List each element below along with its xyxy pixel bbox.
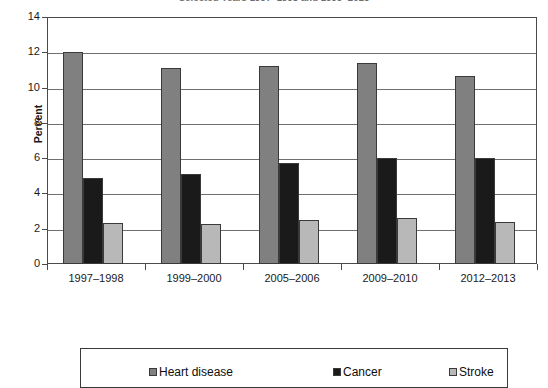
y-tick-label: 0 (8, 257, 40, 269)
bar (495, 222, 515, 264)
y-tick-label: 4 (8, 186, 40, 198)
y-tick-label: 8 (8, 116, 40, 128)
x-tick-mark (439, 264, 440, 270)
bar (83, 178, 103, 264)
bar (377, 158, 397, 264)
x-tick-mark (341, 264, 342, 270)
y-tick-label: 2 (8, 222, 40, 234)
bar (103, 223, 123, 264)
x-tick-mark (537, 264, 538, 270)
bar (161, 68, 181, 264)
x-tick-mark (47, 264, 48, 270)
bar (181, 174, 201, 264)
y-tick-label: 14 (8, 10, 40, 22)
legend-label: Heart disease (159, 365, 233, 379)
x-tick-label: 2012–2013 (428, 272, 548, 284)
y-tick-label: 6 (8, 151, 40, 163)
bar (455, 76, 475, 264)
bar (357, 63, 377, 264)
legend-swatch-icon (149, 368, 157, 376)
bars-layer (47, 17, 537, 264)
bar (279, 163, 299, 264)
legend-label: Stroke (459, 365, 494, 379)
bar (299, 220, 319, 264)
bar (475, 158, 495, 264)
y-tick-label: 10 (8, 81, 40, 93)
bar (63, 52, 83, 264)
chart-legend: Heart diseaseCancerStroke (80, 348, 508, 388)
legend-label: Cancer (343, 365, 382, 379)
legend-entry: Heart disease (149, 365, 233, 379)
bar (397, 218, 417, 264)
legend-entry: Cancer (333, 365, 382, 379)
y-tick-label: 12 (8, 45, 40, 57)
bar (201, 224, 221, 264)
chart-title: Selected Years 1997–1998 and 1999–2013 (0, 0, 548, 4)
x-tick-mark (145, 264, 146, 270)
bar (259, 66, 279, 264)
legend-entry: Stroke (449, 365, 494, 379)
legend-swatch-icon (333, 368, 341, 376)
legend-swatch-icon (449, 368, 457, 376)
x-tick-mark (243, 264, 244, 270)
